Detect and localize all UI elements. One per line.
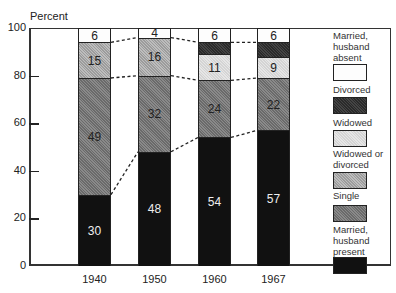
x-tick-label: 1950 [135,273,175,285]
legend-label-present: Married,husbandpresent [333,224,369,257]
legend-swatch-divorced [333,97,367,114]
legend-label-wd: Widowed ordivorced [333,148,383,170]
legend-label-widowed: Widowed [333,117,372,128]
legend-label-line: Widowed or [333,148,383,159]
legend-label-line: Single [333,190,359,201]
legend-swatch-present [333,257,367,274]
legend-label-line: husband [333,41,369,52]
legend-label-divorced: Divorced [333,84,371,95]
legend-label-line: husband [333,235,369,246]
legend-label-absent: Married,husbandabsent [333,30,369,63]
legend-label-single: Single [333,190,359,201]
legend-swatch-absent [333,64,367,81]
legend-label-line: Widowed [333,117,372,128]
legend-label-line: Married, [333,224,369,235]
legend-label-line: Divorced [333,84,371,95]
legend-label-line: divorced [333,159,383,170]
x-tick-label: 1960 [195,273,235,285]
legend-label-line: Married, [333,30,369,41]
legend-swatch-wd [333,172,367,189]
legend-swatch-single [333,205,367,222]
legend-label-line: present [333,246,369,257]
x-tick-label: 1940 [75,273,115,285]
legend-swatch-widowed [333,130,367,147]
x-tick-label: 1967 [254,273,294,285]
legend-label-line: absent [333,52,369,63]
